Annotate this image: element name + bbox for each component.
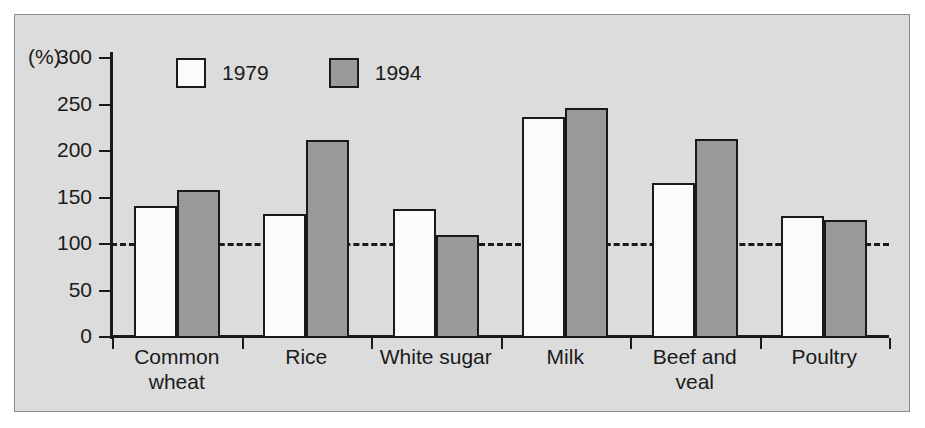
x-label-line: Milk xyxy=(501,344,631,369)
x-label-beef-and-veal: Beef andveal xyxy=(630,344,760,394)
x-label-white-sugar: White sugar xyxy=(371,344,501,369)
gray-swatch-icon xyxy=(329,58,359,88)
legend-item-1994: 1994 xyxy=(329,58,422,88)
bar-rice-1979 xyxy=(263,214,306,338)
bar-milk-1979 xyxy=(522,117,565,338)
bar-common-wheat-1979 xyxy=(134,206,177,338)
x-label-line: veal xyxy=(630,369,760,394)
x-label-milk: Milk xyxy=(501,344,631,369)
legend: 1979 1994 xyxy=(176,58,421,88)
x-label-line: Rice xyxy=(242,344,372,369)
y-tick-50 xyxy=(99,290,111,292)
x-label-line: White sugar xyxy=(371,344,501,369)
y-tick-label-200: 200 xyxy=(32,138,92,162)
y-tick-label-300: 300 xyxy=(32,45,92,69)
x-axis-line xyxy=(110,335,889,338)
bar-milk-1994 xyxy=(565,108,608,338)
reference-line-100 xyxy=(111,243,889,246)
bar-beef-and-veal-1979 xyxy=(652,183,695,338)
y-tick-label-50: 50 xyxy=(32,278,92,302)
y-tick-250 xyxy=(99,104,111,106)
y-axis-line xyxy=(110,52,113,339)
bar-common-wheat-1994 xyxy=(177,190,220,338)
bar-white-sugar-1979 xyxy=(393,209,436,338)
bar-beef-and-veal-1994 xyxy=(695,139,738,338)
y-tick-100 xyxy=(99,243,111,245)
figure-container: (%) 300250200150100500 CommonwheatRiceWh… xyxy=(0,0,925,428)
bar-rice-1994 xyxy=(306,140,349,338)
x-label-rice: Rice xyxy=(242,344,372,369)
bar-poultry-1994 xyxy=(824,220,867,338)
x-label-line: Common xyxy=(112,344,242,369)
x-label-common-wheat: Commonwheat xyxy=(112,344,242,394)
y-tick-300 xyxy=(99,57,111,59)
x-label-line: wheat xyxy=(112,369,242,394)
x-label-line: Beef and xyxy=(630,344,760,369)
x-tick-end xyxy=(889,338,891,349)
legend-item-1979: 1979 xyxy=(176,58,269,88)
y-tick-150 xyxy=(99,197,111,199)
white-swatch-icon xyxy=(176,58,206,88)
legend-label-1979: 1979 xyxy=(222,61,269,85)
bar-poultry-1979 xyxy=(781,216,824,338)
y-tick-0 xyxy=(99,336,111,338)
legend-label-1994: 1994 xyxy=(375,61,422,85)
y-tick-label-250: 250 xyxy=(32,92,92,116)
bar-white-sugar-1994 xyxy=(436,235,479,338)
x-label-poultry: Poultry xyxy=(760,344,890,369)
y-tick-label-100: 100 xyxy=(32,231,92,255)
x-label-line: Poultry xyxy=(760,344,890,369)
y-tick-200 xyxy=(99,150,111,152)
y-tick-label-0: 0 xyxy=(32,324,92,348)
y-tick-label-150: 150 xyxy=(32,185,92,209)
bar-chart: (%) 300250200150100500 CommonwheatRiceWh… xyxy=(0,0,925,428)
